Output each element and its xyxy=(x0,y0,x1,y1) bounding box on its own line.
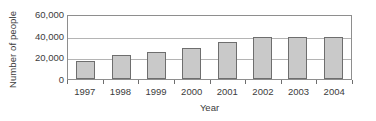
x-axis-tick-labels: 19971998199920002001200220032004 xyxy=(67,86,352,97)
x-axis-tick xyxy=(67,80,68,84)
x-axis-tick xyxy=(103,80,104,84)
x-axis-tick xyxy=(281,80,282,84)
y-axis-tick-labels: 020,00040,00060,000 xyxy=(22,10,64,84)
bar-slot xyxy=(139,16,174,79)
x-axis-tick-label: 2002 xyxy=(245,86,281,97)
bar-2003[interactable] xyxy=(288,37,307,79)
y-axis-tick-label: 40,000 xyxy=(22,32,64,42)
bar-2000[interactable] xyxy=(182,48,201,79)
bar-slot xyxy=(280,16,315,79)
bar-2002[interactable] xyxy=(253,37,272,79)
bar-slot xyxy=(68,16,103,79)
x-axis-ticks xyxy=(67,80,352,84)
x-axis-title: Year xyxy=(67,102,352,113)
bar-slot xyxy=(316,16,351,79)
bar-slot xyxy=(245,16,280,79)
x-axis-tick xyxy=(316,80,317,84)
x-axis-tick-label: 2000 xyxy=(174,86,210,97)
plot-area xyxy=(67,15,352,80)
x-axis-tick-label: 2001 xyxy=(210,86,246,97)
y-axis-tick-label: 60,000 xyxy=(22,10,64,20)
x-axis-tick-label: 2004 xyxy=(316,86,352,97)
x-axis-tick-label: 2003 xyxy=(281,86,317,97)
y-axis-tick-label: 0 xyxy=(22,75,64,85)
x-axis-tick-label: 1997 xyxy=(67,86,103,97)
x-axis-tick xyxy=(245,80,246,84)
bar-series xyxy=(68,16,351,79)
bar-2001[interactable] xyxy=(218,42,237,79)
y-axis-tick-label: 20,000 xyxy=(22,53,64,63)
x-axis-tick xyxy=(352,80,353,84)
bar-1998[interactable] xyxy=(112,55,131,79)
x-axis-tick xyxy=(210,80,211,84)
bar-slot xyxy=(210,16,245,79)
y-axis-title: Number of people xyxy=(7,0,18,100)
x-axis-tick xyxy=(174,80,175,84)
bar-2004[interactable] xyxy=(324,37,343,79)
bar-slot xyxy=(174,16,209,79)
x-axis-tick-label: 1999 xyxy=(138,86,174,97)
x-axis-tick xyxy=(138,80,139,84)
bar-chart-figure: Number of people 020,00040,00060,000 199… xyxy=(0,0,376,121)
x-axis-tick-label: 1998 xyxy=(103,86,139,97)
bar-1999[interactable] xyxy=(147,52,166,79)
bar-slot xyxy=(103,16,138,79)
bar-1997[interactable] xyxy=(76,61,95,79)
